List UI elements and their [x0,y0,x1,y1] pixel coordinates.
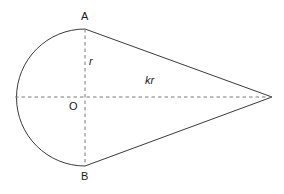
label-point-b: B [81,171,88,182]
upper-tangent-line [85,29,272,97]
lower-tangent-line [85,97,272,166]
label-point-a: A [81,11,88,22]
geometry-diagram: A B O r kr [0,0,284,194]
label-axis-kr: kr [145,75,154,86]
geometry-canvas [0,0,284,194]
label-radius-r: r [89,56,93,67]
label-point-o: O [69,101,78,112]
